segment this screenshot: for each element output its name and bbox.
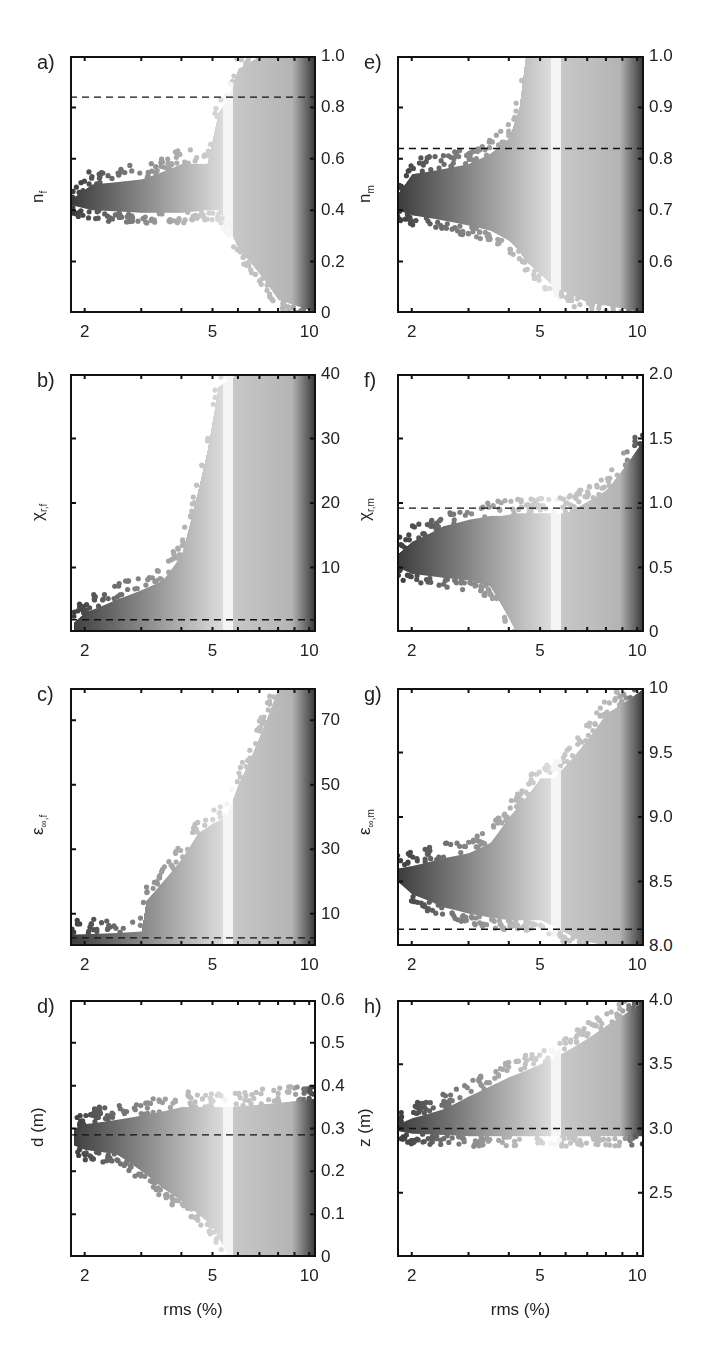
plot-frame-b: [70, 374, 316, 632]
plot-frame-e: [397, 56, 644, 313]
y-tick-label: 10: [321, 905, 340, 922]
x-tick-label: 2: [407, 1267, 416, 1284]
y-tick-label: 1.0: [321, 47, 345, 64]
y-tick-label: 0.2: [321, 1162, 345, 1179]
y-axis-label-d: d (m): [28, 1107, 48, 1147]
y-tick-label: 0.1: [321, 1205, 345, 1222]
y-axis-label-f: χr,m: [355, 498, 376, 521]
panel-label-d: d): [37, 996, 55, 1016]
y-tick-label: 0.5: [649, 559, 673, 576]
panel-label-e: e): [364, 52, 382, 72]
y-tick-label: 40: [321, 365, 340, 382]
panel-label-f: f): [364, 370, 376, 390]
y-tick-label: 50: [321, 776, 340, 793]
plot-frame-h: [397, 1000, 644, 1257]
plot-frame-f: [397, 374, 644, 632]
x-tick-label: 2: [80, 956, 89, 973]
y-axis-label-text: d (m): [28, 1107, 47, 1147]
y-tick-label: 0: [649, 623, 658, 640]
x-axis-label: rms (%): [163, 1300, 222, 1320]
y-tick-label: 9.5: [649, 744, 673, 761]
y-tick-label: 0.4: [321, 1077, 345, 1094]
y-tick-label: 3.5: [649, 1055, 673, 1072]
x-tick-label: 10: [300, 642, 319, 659]
y-axis-label-subscript: r,m: [365, 498, 376, 512]
y-tick-label: 2.5: [649, 1184, 673, 1201]
y-axis-label-text: ε: [355, 827, 374, 835]
y-axis-label-text: n: [28, 193, 47, 202]
y-axis-label-a: nf: [28, 190, 49, 202]
x-tick-label: 10: [628, 323, 647, 340]
y-tick-label: 0.6: [321, 991, 345, 1008]
y-tick-label: 0.6: [321, 150, 345, 167]
y-tick-label: 10: [321, 559, 340, 576]
y-tick-label: 0: [321, 304, 330, 321]
panel-label-c: c): [37, 684, 54, 704]
y-tick-label: 0.6: [649, 253, 673, 270]
panel-label-b: b): [37, 370, 55, 390]
y-axis-label-subscript: m: [365, 185, 376, 193]
y-axis-label-subscript: ∞,f: [38, 815, 49, 828]
y-axis-label-h: z (m): [355, 1108, 375, 1147]
x-tick-label: 5: [535, 1267, 544, 1284]
y-tick-label: 30: [321, 840, 340, 857]
panel-label-h: h): [364, 996, 382, 1016]
x-tick-label: 10: [628, 956, 647, 973]
y-tick-label: 8.0: [649, 937, 673, 954]
y-tick-label: 3.0: [649, 1120, 673, 1137]
y-tick-label: 0.8: [321, 98, 345, 115]
y-axis-label-text: ε: [28, 827, 47, 835]
y-axis-label-text: z (m): [355, 1108, 374, 1147]
y-tick-label: 9.0: [649, 808, 673, 825]
x-tick-label: 5: [208, 956, 217, 973]
x-tick-label: 5: [535, 323, 544, 340]
x-tick-label: 2: [407, 956, 416, 973]
y-tick-label: 70: [321, 711, 340, 728]
panel-label-a: a): [37, 52, 55, 72]
plot-frame-a: [70, 56, 316, 313]
y-axis-label-subscript: r,f: [38, 504, 49, 512]
y-tick-label: 4.0: [649, 991, 673, 1008]
y-axis-label-b: χr,f: [28, 504, 49, 521]
x-tick-label: 10: [300, 956, 319, 973]
y-axis-label-subscript: f: [38, 190, 49, 193]
plot-frame-c: [70, 688, 316, 946]
plot-frame-g: [397, 688, 644, 946]
y-tick-label: 0.8: [649, 150, 673, 167]
panel-label-g: g): [364, 684, 382, 704]
x-tick-label: 10: [300, 323, 319, 340]
x-tick-label: 10: [300, 1267, 319, 1284]
x-tick-label: 10: [628, 1267, 647, 1284]
y-tick-label: 1.5: [649, 430, 673, 447]
y-tick-label: 0.7: [649, 201, 673, 218]
y-tick-label: 8.5: [649, 873, 673, 890]
y-tick-label: 2.0: [649, 365, 673, 382]
y-tick-label: 0.9: [649, 98, 673, 115]
y-tick-label: 0.4: [321, 201, 345, 218]
y-tick-label: 10: [649, 679, 668, 696]
y-axis-label-c: ε∞,f: [28, 815, 49, 835]
x-tick-label: 5: [535, 956, 544, 973]
y-axis-label-text: χ: [355, 512, 374, 521]
x-tick-label: 5: [208, 1267, 217, 1284]
y-axis-label-text: χ: [28, 512, 47, 521]
x-tick-label: 5: [535, 642, 544, 659]
y-axis-label-e: nm: [355, 185, 376, 203]
x-axis-label: rms (%): [491, 1300, 550, 1320]
y-tick-label: 0.5: [321, 1034, 345, 1051]
x-tick-label: 5: [208, 323, 217, 340]
y-tick-label: 1.0: [649, 494, 673, 511]
y-axis-label-text: n: [355, 193, 374, 202]
x-tick-label: 2: [80, 642, 89, 659]
y-tick-label: 1.0: [649, 47, 673, 64]
x-tick-label: 2: [407, 642, 416, 659]
y-axis-label-g: ε∞,m: [355, 809, 376, 835]
x-tick-label: 5: [208, 642, 217, 659]
plot-frame-d: [70, 1000, 316, 1257]
y-tick-label: 0.2: [321, 253, 345, 270]
y-tick-label: 0.3: [321, 1120, 345, 1137]
x-tick-label: 2: [80, 1267, 89, 1284]
y-tick-label: 0: [321, 1248, 330, 1265]
y-axis-label-subscript: ∞,m: [365, 809, 376, 827]
x-tick-label: 2: [407, 323, 416, 340]
